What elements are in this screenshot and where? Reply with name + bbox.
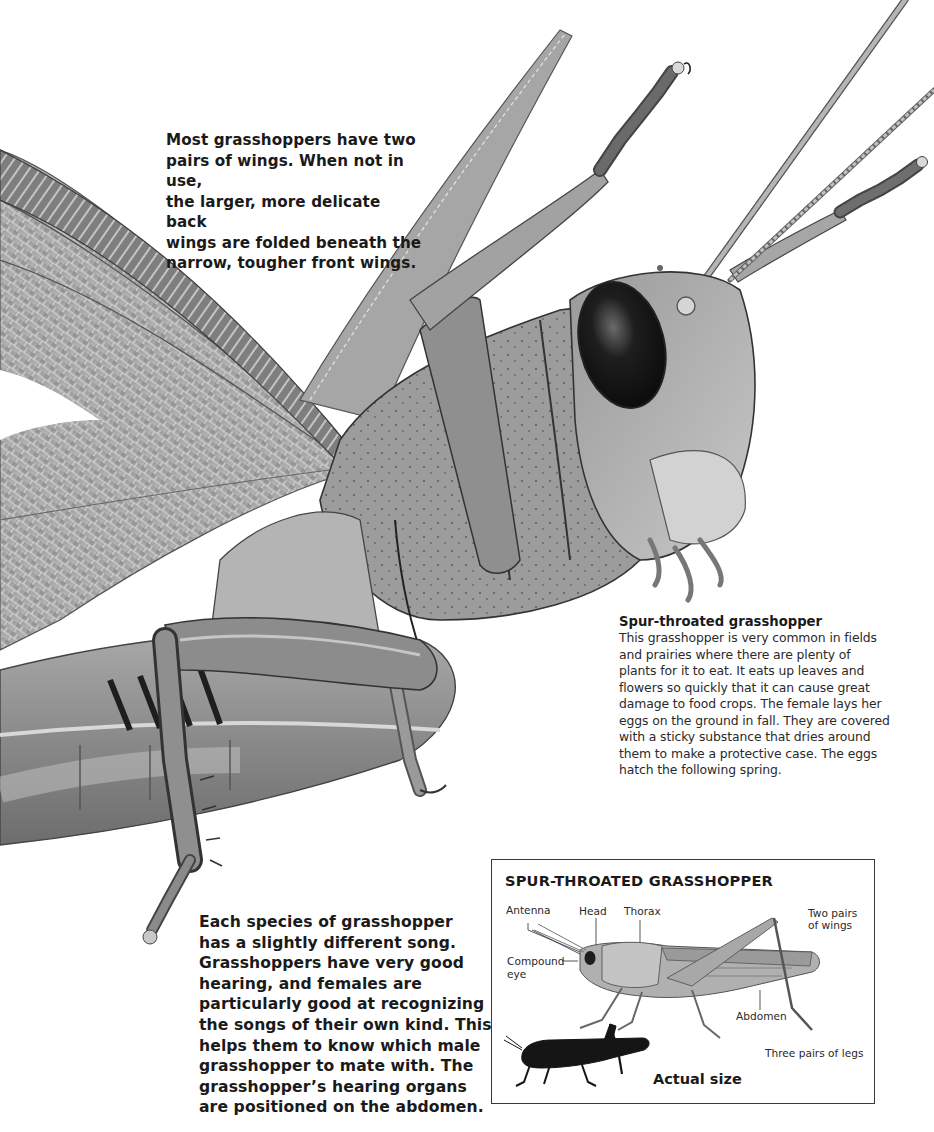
species-body-line: plants for it to eat. It eats up leaves … bbox=[619, 663, 864, 678]
species-body-line: flowers so quickly that it can cause gre… bbox=[619, 680, 870, 695]
species-body-line: with a sticky substance that dries aroun… bbox=[619, 729, 871, 744]
label-thorax: Thorax bbox=[624, 905, 661, 918]
species-body: This grasshopper is very common in field… bbox=[619, 630, 934, 779]
label-head: Head bbox=[579, 905, 607, 918]
song-caption-line: the songs of their own kind. This bbox=[199, 1015, 499, 1036]
wings-caption-line: the larger, more delicate back bbox=[166, 192, 426, 233]
song-caption: Each species of grasshopper has a slight… bbox=[199, 912, 499, 1118]
inset-title: SPUR-THROATED GRASSHOPPER bbox=[505, 872, 773, 889]
actual-size-label: Actual size bbox=[653, 1071, 742, 1087]
inset-compound-eye bbox=[585, 951, 596, 965]
species-body-line: hatch the following spring. bbox=[619, 762, 782, 777]
song-caption-line: grasshopper to mate with. The bbox=[199, 1056, 499, 1077]
anatomy-inset-box: SPUR-THROATED GRASSHOPPER Antenna Head T… bbox=[491, 859, 875, 1104]
wings-caption-line: pairs of wings. When not in use, bbox=[166, 151, 426, 192]
raised-middle-leg bbox=[730, 157, 928, 283]
song-caption-line: grasshopper’s hearing organs bbox=[199, 1077, 499, 1098]
label-legs: Three pairs of legs bbox=[765, 1047, 863, 1060]
song-caption-line: Each species of grasshopper bbox=[199, 912, 499, 933]
species-description: Spur-throated grasshopper This grasshopp… bbox=[619, 614, 934, 779]
species-body-line: them to make a protective case. The eggs bbox=[619, 746, 877, 761]
song-caption-line: are positioned on the abdomen. bbox=[199, 1097, 499, 1118]
song-caption-line: hearing, and females are bbox=[199, 974, 499, 995]
song-caption-line: particularly good at recognizing bbox=[199, 994, 499, 1015]
label-abdomen: Abdomen bbox=[736, 1010, 787, 1023]
wings-caption: Most grasshoppers have two pairs of wing… bbox=[166, 130, 426, 274]
wings-caption-line: wings are folded beneath the bbox=[166, 233, 426, 254]
species-body-line: This grasshopper is very common in field… bbox=[619, 630, 877, 645]
label-antenna: Antenna bbox=[506, 904, 551, 917]
song-caption-line: has a slightly different song. bbox=[199, 933, 499, 954]
species-body-line: and prairies where there are plenty of bbox=[619, 647, 851, 662]
species-title: Spur-throated grasshopper bbox=[619, 614, 934, 630]
inset-grasshopper-diagram bbox=[492, 860, 876, 1105]
label-wings-line2: of wings bbox=[808, 919, 852, 932]
label-eye-line1: Compound bbox=[507, 955, 565, 968]
wings-caption-line: narrow, tougher front wings. bbox=[166, 253, 426, 274]
species-body-line: damage to food crops. The female lays he… bbox=[619, 696, 882, 711]
wings-caption-line: Most grasshoppers have two bbox=[166, 130, 426, 151]
song-caption-line: Grasshoppers have very good bbox=[199, 953, 499, 974]
species-body-line: eggs on the ground in fall. They are cov… bbox=[619, 713, 890, 728]
actual-size-silhouette bbox=[504, 1024, 649, 1086]
antennae bbox=[690, 0, 934, 300]
label-eye-line2: eye bbox=[507, 968, 526, 981]
label-wings-line1: Two pairs bbox=[808, 907, 857, 920]
song-caption-line: helps them to know which male bbox=[199, 1036, 499, 1057]
